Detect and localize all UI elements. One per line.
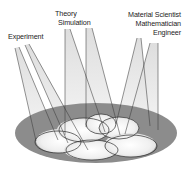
label-engineer: Engineer	[153, 29, 181, 37]
label-mathematician: Mathematician	[136, 20, 181, 28]
label-experiment: Experiment	[8, 33, 43, 41]
label-simulation: Simulation	[58, 19, 91, 27]
diagram-canvas: Experiment Theory Simulation Material Sc…	[0, 0, 189, 173]
label-theory: Theory	[55, 10, 77, 18]
label-material-scientist: Material Scientist	[128, 11, 181, 19]
